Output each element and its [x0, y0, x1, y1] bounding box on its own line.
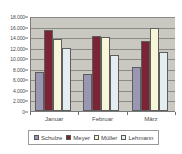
y-axis-tick-mark — [25, 48, 28, 49]
bar-schulze-februar — [83, 74, 92, 111]
chart-legend: SchulzeMeyerMüllerLehmann — [28, 130, 159, 145]
bar-group — [31, 17, 79, 111]
x-axis: JanuarFebruarMärz — [30, 114, 175, 126]
bar-müller-märz — [150, 28, 159, 111]
plot-area — [30, 17, 175, 112]
y-axis-tick-label: 16.000 — [10, 25, 25, 31]
legend-swatch-icon — [121, 135, 126, 140]
y-axis-tick-mark — [25, 27, 28, 28]
bar-schulze-märz — [132, 67, 141, 111]
x-axis-tick-label: Februar — [78, 114, 126, 125]
y-axis-tick-label: 10.000 — [10, 56, 25, 62]
bar-lehmann-januar — [62, 48, 71, 111]
legend-item-schulze[interactable]: Schulze — [34, 134, 62, 142]
y-axis-tick-mark — [25, 80, 28, 81]
bar-schulze-januar — [35, 72, 44, 111]
y-axis-tick-label: 4.000 — [13, 88, 25, 94]
y-axis: 18.00016.00014.00012.00010.0008.0006.000… — [0, 17, 28, 113]
y-axis-tick-mark — [25, 17, 28, 18]
y-axis-tick-mark — [25, 112, 28, 113]
bar-meyer-januar — [44, 30, 53, 111]
legend-label: Schulze — [41, 134, 62, 142]
legend-swatch-icon — [66, 135, 71, 140]
x-axis-tick-mark — [30, 112, 31, 115]
legend-label: Müller — [101, 134, 117, 142]
y-axis-tick-label: 6.000 — [13, 77, 25, 83]
legend-label: Meyer — [73, 134, 90, 142]
x-axis-tick-mark — [127, 112, 128, 115]
bar-müller-januar — [53, 39, 62, 111]
chart-title — [0, 0, 182, 9]
x-axis-tick-mark — [175, 112, 176, 115]
legend-label: Lehmann — [128, 134, 153, 142]
bar-group — [128, 17, 176, 111]
bar-meyer-februar — [92, 36, 101, 111]
x-axis-tick-label: März — [127, 114, 175, 125]
bar-chart-widget: 18.00016.00014.00012.00010.0008.0006.000… — [0, 0, 182, 154]
y-axis-tick-label: 14.000 — [10, 35, 25, 41]
bar-müller-februar — [101, 37, 110, 111]
bar-group — [79, 17, 127, 111]
y-axis-tick-label: 18.000 — [10, 14, 25, 20]
bar-meyer-märz — [141, 41, 150, 111]
legend-item-müller[interactable]: Müller — [94, 134, 117, 142]
y-axis-tick-mark — [25, 69, 28, 70]
bar-lehmann-märz — [159, 52, 168, 111]
y-axis-tick-label: 8.000 — [13, 67, 25, 73]
bar-lehmann-februar — [110, 55, 119, 111]
legend-item-meyer[interactable]: Meyer — [66, 134, 90, 142]
y-axis-tick-label: 2.000 — [13, 98, 25, 104]
y-axis-tick-label: 12.000 — [10, 46, 25, 52]
y-axis-tick-mark — [25, 38, 28, 39]
y-axis-tick-mark — [25, 59, 28, 60]
legend-item-lehmann[interactable]: Lehmann — [121, 134, 153, 142]
y-axis-tick-mark — [25, 101, 28, 102]
legend-swatch-icon — [34, 135, 39, 140]
x-axis-tick-mark — [78, 112, 79, 115]
legend-swatch-icon — [94, 135, 99, 140]
x-axis-tick-label: Januar — [30, 114, 78, 125]
y-axis-tick-mark — [25, 90, 28, 91]
